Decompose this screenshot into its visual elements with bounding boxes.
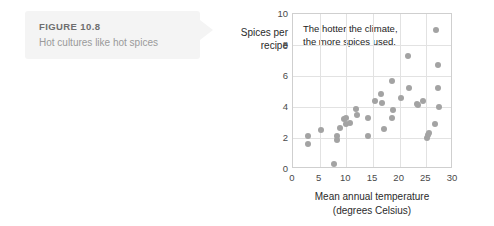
x-axis-title: Mean annual temperature (degrees Celsius… (268, 190, 476, 217)
plot-area: The hotter the climate, the more spices … (292, 13, 452, 168)
x-tick-label: 25 (420, 172, 431, 183)
gridline-vertical (400, 14, 401, 167)
figure-number-label: FIGURE 10.8 (39, 20, 200, 34)
data-point (389, 115, 395, 121)
data-point (331, 161, 337, 167)
data-point (405, 53, 411, 59)
callout-tail-pointer (200, 20, 213, 40)
data-point (433, 27, 439, 33)
x-tick-label: 20 (393, 172, 404, 183)
data-point (435, 62, 441, 68)
data-point (398, 95, 404, 101)
scatter-chart-figure: Spices per recipe 0246810 The hotter the… (222, 0, 494, 226)
y-tick-label: 0 (272, 163, 288, 174)
data-point (354, 112, 360, 118)
y-tick-label: 2 (272, 132, 288, 143)
x-tick-label: 30 (447, 172, 458, 183)
y-tick-label: 4 (272, 101, 288, 112)
data-point (347, 120, 353, 126)
data-point (337, 125, 343, 131)
data-point (318, 127, 324, 133)
data-point (436, 104, 442, 110)
x-axis-tick-labels: 051015202530 (292, 172, 452, 186)
gridline-vertical (426, 14, 427, 167)
gridline-vertical (320, 14, 321, 167)
data-point (426, 130, 432, 136)
gridline-horizontal (293, 76, 451, 77)
gridline-horizontal (293, 107, 451, 108)
data-point (305, 141, 311, 147)
data-point (406, 85, 412, 91)
gridline-vertical (346, 14, 347, 167)
data-point (379, 100, 385, 106)
figure-caption-callout: FIGURE 10.8 Hot cultures like hot spices (25, 11, 200, 59)
x-tick-label: 15 (367, 172, 378, 183)
gridline-horizontal (293, 45, 451, 46)
data-point (432, 121, 438, 127)
y-tick-label: 10 (272, 8, 288, 19)
data-point (389, 78, 395, 84)
data-point (390, 107, 396, 113)
y-tick-label: 6 (272, 70, 288, 81)
y-tick-label: 8 (272, 39, 288, 50)
data-point (435, 85, 441, 91)
caption-inner: FIGURE 10.8 Hot cultures like hot spices (25, 11, 200, 50)
data-point (372, 98, 378, 104)
data-point (381, 126, 387, 132)
data-point (378, 91, 384, 97)
figure-title-label: Hot cultures like hot spices (39, 35, 200, 50)
x-tick-label: 5 (316, 172, 321, 183)
data-point (365, 115, 371, 121)
gridline-vertical (373, 14, 374, 167)
data-point (420, 98, 426, 104)
y-axis-tick-labels: 0246810 (270, 13, 288, 168)
x-tick-label: 10 (340, 172, 351, 183)
x-tick-label: 0 (289, 172, 294, 183)
